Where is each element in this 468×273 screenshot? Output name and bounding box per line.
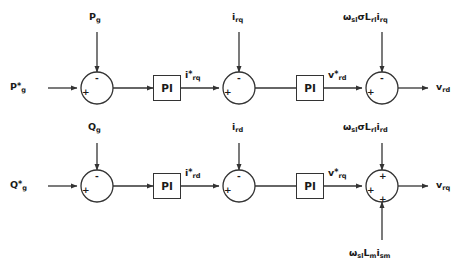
- sum2-minus-sign: -: [237, 74, 241, 83]
- sum6-left-plus-sign: +: [367, 186, 375, 195]
- signal-label-q-feedback: Qg: [88, 122, 101, 132]
- vrd-ref-sub: rd: [338, 74, 346, 82]
- pi-controller-top-left[interactable]: PI: [153, 75, 181, 101]
- sum1-plus-sign: +: [82, 88, 90, 97]
- current-sub: sm: [380, 252, 391, 260]
- signal-label-q-ref: Q*g: [10, 180, 27, 190]
- irq-fb-sub: rq: [235, 16, 243, 24]
- diagram-wires: [0, 0, 468, 273]
- ird-fb-sub: rd: [235, 126, 243, 134]
- omega-sub: sl: [351, 126, 357, 134]
- decoupling-term-bottom: ωslLmism: [349, 248, 390, 258]
- q-ref-sub: g: [22, 184, 27, 192]
- p-fb-sub: g: [96, 16, 101, 24]
- vrd-out-sub: rd: [442, 86, 450, 94]
- sum4-minus-sign: -: [95, 172, 99, 181]
- pi-label: PI: [304, 82, 316, 94]
- decoupling-term-mid: ωslσLrlird: [343, 122, 388, 132]
- inductance-sub: m: [370, 252, 377, 260]
- sigma-symbol: σ: [357, 121, 364, 132]
- irq-ref-sub: rq: [192, 74, 200, 82]
- pi-controller-bottom-right[interactable]: PI: [296, 173, 324, 199]
- signal-label-p-feedback: Pg: [89, 12, 101, 22]
- signal-label-irq-feedback: irq: [232, 12, 243, 22]
- q-fb-sub: g: [96, 126, 101, 134]
- sum4-plus-sign: +: [82, 186, 90, 195]
- q-ref-base: Q: [10, 179, 18, 190]
- inductance-sub: rl: [371, 126, 377, 134]
- sum6-bottom-plus-sign: +: [379, 195, 387, 204]
- pi-label: PI: [304, 180, 316, 192]
- current-sub: rq: [380, 16, 388, 24]
- signal-label-vrq-ref: v*rq: [328, 168, 346, 178]
- pi-controller-top-right[interactable]: PI: [296, 75, 324, 101]
- omega-sub: sl: [351, 16, 357, 24]
- vrq-ref-sub: rq: [338, 172, 346, 180]
- p-fb-base: P: [89, 11, 96, 22]
- inductance-symbol: L: [363, 247, 369, 258]
- inductance-sub: rl: [371, 16, 377, 24]
- signal-label-ird-ref: i*rd: [185, 168, 200, 178]
- p-ref-base: P: [10, 81, 17, 92]
- current-sub: rd: [380, 126, 388, 134]
- pi-label: PI: [161, 82, 173, 94]
- sum5-minus-sign: -: [237, 172, 241, 181]
- inductance-symbol: L: [365, 121, 371, 132]
- vrq-out-sub: rq: [442, 184, 450, 192]
- p-ref-sub: g: [21, 86, 26, 94]
- signal-label-vrd-output: vrd: [436, 82, 450, 92]
- pi-controller-bottom-left[interactable]: PI: [153, 173, 181, 199]
- q-fb-base: Q: [88, 121, 96, 132]
- signal-label-ird-feedback: ird: [232, 122, 243, 132]
- pi-label: PI: [161, 180, 173, 192]
- ird-ref-sub: rd: [192, 172, 200, 180]
- sum5-plus-sign: +: [224, 186, 232, 195]
- signal-label-vrd-ref: v*rd: [328, 70, 346, 80]
- sum3-plus-sign: +: [367, 88, 375, 97]
- signal-label-p-ref: P*g: [10, 82, 26, 92]
- sum1-minus-sign: -: [95, 74, 99, 83]
- decoupling-term-top: ωslσLrlirq: [343, 12, 388, 22]
- inductance-symbol: L: [365, 11, 371, 22]
- signal-label-irq-ref: i*rq: [185, 70, 200, 80]
- sigma-symbol: σ: [357, 11, 364, 22]
- sum2-plus-sign: +: [224, 88, 232, 97]
- signal-label-vrq-output: vrq: [436, 180, 450, 190]
- control-block-diagram: PI PI PI PI + - + - + - + - + - + + + P*…: [0, 0, 468, 273]
- omega-sub: sl: [357, 252, 363, 260]
- sum3-minus-sign: -: [380, 74, 384, 83]
- sum6-top-plus-sign: +: [379, 172, 387, 181]
